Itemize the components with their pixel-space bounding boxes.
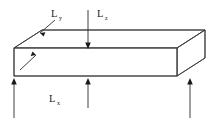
beam-diagram-svg: L y L z L x bbox=[0, 0, 211, 122]
depth-label-base: L bbox=[51, 8, 57, 19]
length-arrow-right-head bbox=[187, 78, 193, 85]
beam-diagram-container: L y L z L x bbox=[0, 0, 211, 122]
length-label-subscript: x bbox=[57, 100, 60, 106]
depth-label-subscript: y bbox=[59, 15, 62, 21]
length-dimension-group: L x bbox=[11, 78, 193, 118]
height-label-base: L bbox=[97, 8, 103, 19]
length-arrow-middle-head bbox=[85, 78, 91, 85]
height-label-subscript: z bbox=[105, 15, 108, 21]
length-arrow-left-head bbox=[11, 78, 17, 85]
beam-solid bbox=[14, 30, 205, 76]
length-label-base: L bbox=[49, 93, 55, 104]
beam-front-face bbox=[14, 48, 177, 76]
